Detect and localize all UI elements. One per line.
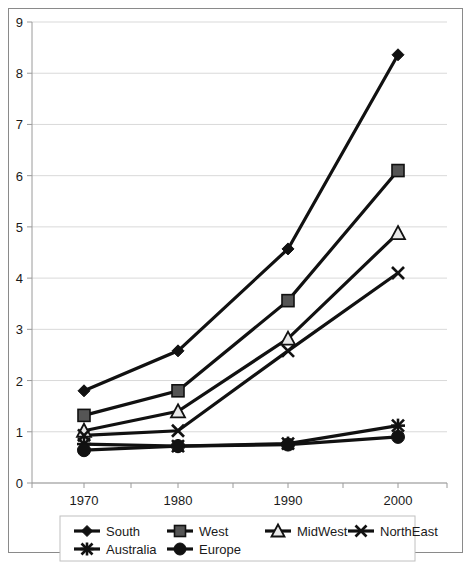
x-axis-tick-label: 2000 [384,493,413,508]
legend-marker-europe [174,543,186,555]
y-axis-tick-label: 7 [16,117,23,132]
data-point-west-2000 [392,165,404,177]
legend-marker-australia [81,543,94,556]
series-markers [77,49,405,457]
legend-label-europe: Europe [199,542,241,557]
x-axis-tick-label: 1980 [164,493,193,508]
y-axis-tick-label: 8 [16,66,23,81]
x-axis-tick-labels: 1970198019902000 [32,483,447,508]
y-axis-tick-label: 9 [16,15,23,30]
legend-label-west: West [199,524,229,539]
legend-label-australia: Australia [106,542,157,557]
legend-marker-west [175,526,186,537]
y-axis-tick-label: 0 [16,476,23,491]
y-axis-tick-label: 3 [16,322,23,337]
legend-label-midwest: MidWest [297,524,348,539]
y-axis-tick-labels: 0123456789 [16,15,23,491]
series-line-australia [84,426,398,446]
chart-plot-area: 0123456789 1970198019902000 SouthWestMid… [0,0,475,581]
line-chart: 0123456789 1970198019902000 SouthWestMid… [0,0,475,581]
y-axis-tick-label: 5 [16,220,23,235]
data-point-europe-2000 [392,430,405,443]
y-axis-tick-label: 4 [16,271,23,286]
x-axis-tick-label: 1990 [274,493,303,508]
data-point-south-1970 [78,385,90,397]
data-point-europe-1990 [282,438,295,451]
y-axis-tick-label: 6 [16,169,23,184]
data-point-west-1980 [172,385,184,397]
legend-entry-europe[interactable]: Europe [167,542,241,557]
data-point-midwest-2000 [391,226,405,239]
data-point-northeast-1990 [282,345,294,357]
series-line-northeast [84,273,398,435]
y-axis-tick-label: 1 [16,425,23,440]
legend-entry-midwest[interactable]: MidWest [265,524,348,539]
data-point-europe-1980 [172,440,185,453]
data-point-west-1990 [282,295,294,307]
legend-label-northeast: NorthEast [380,524,438,539]
data-point-west-1970 [78,409,90,421]
x-axis-tick-label: 1970 [70,493,99,508]
legend-label-south: South [106,524,140,539]
series-line-midwest [84,233,398,431]
series-lines [84,55,398,450]
chart-legend: SouthWestMidWestNorthEastAustraliaEurope [60,516,438,561]
data-point-northeast-2000 [392,267,404,279]
y-axis-tick-label: 2 [16,374,23,389]
data-point-europe-1970 [78,444,91,457]
legend-entry-australia[interactable]: Australia [74,542,157,557]
